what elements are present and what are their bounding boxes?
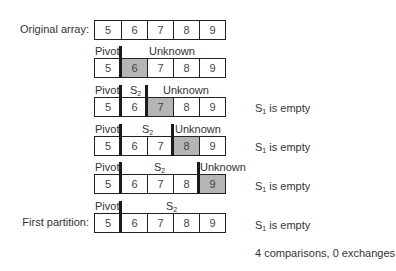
array-cell: 6 bbox=[121, 175, 147, 193]
array-cell: 6 bbox=[121, 98, 147, 116]
array-cell: 5 bbox=[95, 175, 121, 193]
unknown-label: Unknown bbox=[200, 161, 246, 173]
array-cell-highlighted: 8 bbox=[173, 137, 199, 155]
unknown-label: Unknown bbox=[149, 45, 195, 57]
partition-divider bbox=[119, 124, 122, 156]
array-cell: 8 bbox=[173, 214, 199, 232]
array-cell: 9 bbox=[199, 214, 225, 232]
partition-divider bbox=[119, 162, 122, 194]
array-step-3: 5 6 7 8 9 bbox=[94, 136, 226, 156]
pivot-label: Pivot bbox=[95, 123, 119, 135]
array-cell-highlighted: 6 bbox=[121, 59, 147, 77]
array-cell: 5 bbox=[95, 137, 121, 155]
partition-divider bbox=[119, 46, 122, 78]
array-cell: 9 bbox=[199, 59, 225, 77]
array-cell: 5 bbox=[95, 59, 121, 77]
partition-divider bbox=[145, 85, 148, 117]
array-cell: 8 bbox=[173, 98, 199, 116]
array-cell-highlighted: 9 bbox=[199, 175, 225, 193]
partition-divider bbox=[197, 162, 200, 194]
unknown-label: Unknown bbox=[163, 84, 209, 96]
array-cell: 5 bbox=[95, 21, 121, 39]
array-cell: 9 bbox=[199, 137, 225, 155]
pivot-label: Pivot bbox=[95, 200, 119, 212]
array-cell: 6 bbox=[121, 21, 147, 39]
array-cell: 6 bbox=[121, 137, 147, 155]
array-cell: 8 bbox=[173, 175, 199, 193]
pivot-label: Pivot bbox=[95, 45, 119, 57]
array-first-partition: 5 6 7 8 9 bbox=[94, 213, 226, 233]
pivot-label: Pivot bbox=[95, 161, 119, 173]
s1-empty-note: S1 is empty bbox=[255, 219, 310, 232]
pivot-label: Pivot bbox=[95, 84, 119, 96]
partition-divider bbox=[119, 85, 122, 117]
array-cell: 7 bbox=[147, 175, 173, 193]
array-original: 5 6 7 8 9 bbox=[94, 20, 226, 40]
array-cell: 8 bbox=[173, 21, 199, 39]
s1-empty-note: S1 is empty bbox=[255, 180, 310, 193]
s1-empty-note: S1 is empty bbox=[255, 102, 310, 115]
array-step-4: 5 6 7 8 9 bbox=[94, 174, 226, 194]
array-cell: 7 bbox=[147, 21, 173, 39]
array-cell-highlighted: 7 bbox=[147, 98, 173, 116]
original-array-label: Original array: bbox=[4, 23, 89, 35]
summary-note: 4 comparisons, 0 exchanges bbox=[255, 247, 395, 259]
array-cell: 5 bbox=[95, 98, 121, 116]
array-cell: 7 bbox=[147, 59, 173, 77]
array-cell: 9 bbox=[199, 21, 225, 39]
array-cell: 7 bbox=[147, 214, 173, 232]
array-cell: 8 bbox=[173, 59, 199, 77]
array-cell: 9 bbox=[199, 98, 225, 116]
array-step-2: 5 6 7 8 9 bbox=[94, 97, 226, 117]
partition-divider bbox=[171, 124, 174, 156]
array-cell: 7 bbox=[147, 137, 173, 155]
array-cell: 6 bbox=[121, 214, 147, 232]
array-cell: 5 bbox=[95, 214, 121, 232]
first-partition-label: First partition: bbox=[4, 216, 89, 228]
array-step-1: 5 6 7 8 9 bbox=[94, 58, 226, 78]
s1-empty-note: S1 is empty bbox=[255, 141, 310, 154]
unknown-label: Unknown bbox=[175, 123, 221, 135]
partition-divider bbox=[119, 201, 122, 233]
